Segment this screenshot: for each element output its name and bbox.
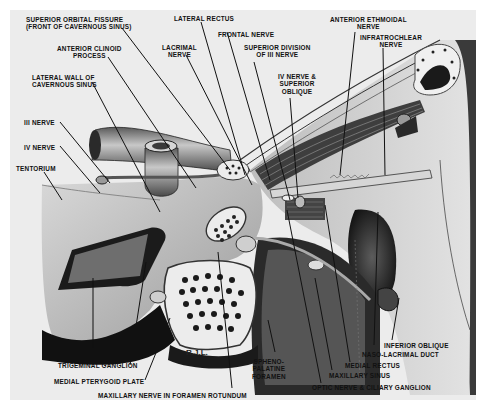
label-iii-nerve: III NERVE xyxy=(24,119,55,126)
label-lateral-rectus: LATERAL RECTUS xyxy=(174,15,234,22)
label-inferior-oblique: INFERIOR OBLIQUE xyxy=(384,342,449,349)
label-anterior-ethmoidal-nerve: ANTERIOR ETHMOIDAL NERVE xyxy=(330,16,407,31)
artist-signature: R.J.L. xyxy=(186,348,208,357)
label-superior-orbital-fissure: SUPERIOR ORBITAL FISSURE (FRONT OF CAVER… xyxy=(26,16,132,31)
label-sphenopalatine-foramen: SPHENO- PALATINE FORAMEN xyxy=(252,358,286,380)
label-maxillary-sinus: MAXILLARY SINUS xyxy=(329,372,390,379)
label-superior-division-iii-nerve: SUPERIOR DIVISION OF III NERVE xyxy=(244,44,311,59)
label-medial-rectus: MEDIAL RECTUS xyxy=(345,362,400,369)
label-tentorium: TENTORIUM xyxy=(16,165,56,172)
label-lateral-wall-cavernous-sinus: LATERAL WALL OF CAVERNOUS SINUS xyxy=(32,74,97,89)
label-medial-pterygoid-plate: MEDIAL PTERYGOID PLATE xyxy=(54,378,144,385)
label-iv-nerve-superior-oblique: IV NERVE & SUPERIOR OBLIQUE xyxy=(278,73,316,95)
label-frontal-nerve: FRONTAL NERVE xyxy=(218,31,274,38)
label-iv-nerve: IV NERVE xyxy=(24,144,55,151)
label-infratrochlear-nerve: INFRATROCHLEAR NERVE xyxy=(360,34,422,49)
label-optic-nerve-ciliary-ganglion: OPTIC NERVE & CILIARY GANGLION xyxy=(312,384,431,391)
label-lacrimal-nerve: LACRIMAL NERVE xyxy=(162,44,197,59)
label-trigeminal-ganglion: TRIGEMINAL GANGLION xyxy=(58,362,138,369)
label-naso-lacrimal-duct: NASO-LACRIMAL DUCT xyxy=(362,351,439,358)
label-maxillary-nerve-foramen-rotundum: MAXILLARY NERVE IN FORAMEN ROTUNDUM xyxy=(98,392,247,399)
figure-canvas: SUPERIOR ORBITAL FISSURE (FRONT OF CAVER… xyxy=(0,0,484,410)
label-meckels-cave: MECKEL'S CAVE xyxy=(46,346,100,353)
label-anterior-clinoid-process: ANTERIOR CLINOID PROCESS xyxy=(57,45,122,60)
